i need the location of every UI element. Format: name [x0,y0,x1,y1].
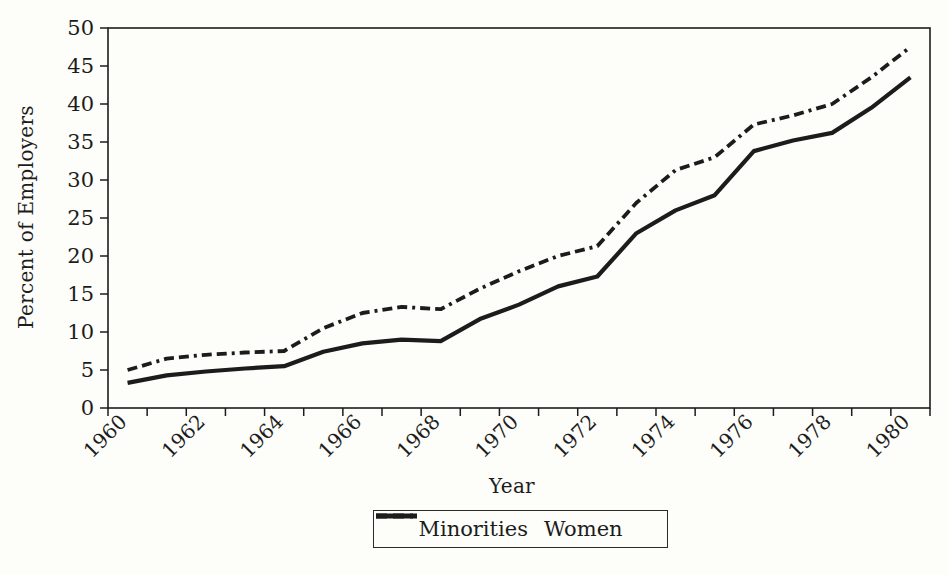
x-axis-title: Year [489,474,535,498]
minorities-line [128,47,911,370]
legend-item-women: Women [544,519,623,540]
x-tick-label: 1972 [548,410,601,463]
legend-item-minorities: Minorities [418,519,528,540]
y-tick-label: 20 [67,244,94,268]
y-tick-label: 45 [67,54,94,78]
legend-box: Minorities Women [373,510,668,548]
plot-area: 0510152025303540455019601962196419661968… [0,0,948,575]
legend-label-women: Women [544,519,623,540]
y-tick-label: 40 [67,92,94,116]
x-tick-label: 1962 [157,410,210,463]
women-line [128,77,911,383]
x-tick-label: 1974 [627,410,680,463]
y-tick-label: 50 [67,16,94,40]
y-axis-title: Percent of Employers [14,105,38,329]
x-tick-label: 1968 [392,410,445,463]
x-tick-label: 1970 [470,410,523,463]
x-tick-label: 1980 [861,410,914,463]
y-tick-label: 10 [67,320,94,344]
solid-line-sample-icon [374,511,418,521]
y-tick-label: 30 [67,168,94,192]
y-tick-label: 5 [81,358,94,382]
plot-border [108,28,930,408]
y-tick-label: 15 [67,282,94,306]
y-tick-label: 35 [67,130,94,154]
y-tick-label: 25 [67,206,94,230]
x-tick-label: 1964 [235,410,288,463]
chart-canvas: 0510152025303540455019601962196419661968… [0,0,948,575]
x-tick-label: 1978 [783,410,836,463]
legend-label-minorities: Minorities [418,519,528,540]
x-tick-label: 1976 [705,410,758,463]
x-tick-label: 1966 [313,410,366,463]
y-tick-label: 0 [81,396,94,420]
